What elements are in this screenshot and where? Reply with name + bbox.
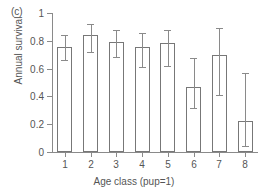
- error-bar-cap-lower: [61, 60, 68, 61]
- y-tick-label: 0.8: [0, 35, 44, 46]
- error-bar-cap-lower: [87, 52, 94, 53]
- x-tick-mark: [219, 152, 220, 157]
- x-tick-label: 2: [81, 159, 101, 170]
- x-tick-mark: [142, 152, 143, 157]
- error-bar-line: [142, 33, 143, 67]
- x-tick-label: 4: [132, 159, 152, 170]
- x-tick-label: 7: [209, 159, 229, 170]
- x-axis-title: Age class (pup=1): [0, 176, 268, 187]
- error-bar-cap-upper: [61, 35, 68, 36]
- x-tick-label: 6: [184, 159, 204, 170]
- y-tick-label-wrap: 0: [0, 152, 44, 153]
- error-bar-cap-lower: [139, 67, 146, 68]
- error-bar-cap-lower: [242, 146, 249, 147]
- x-tick-mark: [91, 152, 92, 157]
- error-bar-line: [245, 73, 246, 145]
- y-tick-label: 0.2: [0, 119, 44, 130]
- error-bar-cap-lower: [164, 66, 171, 67]
- error-bar-cap-lower: [216, 95, 223, 96]
- error-bar-line: [219, 28, 220, 95]
- x-tick-label: 8: [235, 159, 255, 170]
- error-bar-cap-upper: [87, 24, 94, 25]
- y-tick-label: 0: [0, 147, 44, 158]
- y-tick-label-wrap: 0.4: [0, 96, 44, 97]
- x-axis-line: [52, 152, 258, 153]
- y-tick-label-wrap: 0.2: [0, 124, 44, 125]
- error-bar-cap-upper: [242, 73, 249, 74]
- y-tick-label-wrap: 0.6: [0, 69, 44, 70]
- error-bar-cap-lower: [113, 57, 120, 58]
- error-bar-line: [168, 30, 169, 66]
- x-tick-mark: [65, 152, 66, 157]
- error-bar-line: [116, 30, 117, 58]
- error-bar-cap-upper: [113, 30, 120, 31]
- x-tick-label: 3: [106, 159, 126, 170]
- x-tick-mark: [116, 152, 117, 157]
- error-bar-cap-upper: [190, 58, 197, 59]
- bar: [57, 47, 72, 152]
- y-tick-label: 0.6: [0, 63, 44, 74]
- x-tick-mark: [245, 152, 246, 157]
- error-bar-cap-upper: [139, 33, 146, 34]
- error-bar-cap-lower: [190, 108, 197, 109]
- y-tick-label: 0.4: [0, 91, 44, 102]
- plot-area: [52, 13, 258, 152]
- error-bar-cap-upper: [164, 30, 171, 31]
- x-tick-mark: [168, 152, 169, 157]
- x-tick-mark: [194, 152, 195, 157]
- error-bar-line: [194, 58, 195, 108]
- figure-panel-c: (c) Annual survival 00.20.40.60.81 12345…: [0, 0, 268, 196]
- y-tick-mark: [47, 152, 52, 153]
- error-bar-cap-upper: [216, 28, 223, 29]
- y-tick-label: 1: [0, 8, 44, 19]
- bar: [109, 42, 124, 152]
- y-tick-label-wrap: 1: [0, 13, 44, 14]
- x-tick-label: 1: [55, 159, 75, 170]
- error-bar-line: [65, 35, 66, 60]
- y-tick-label-wrap: 0.8: [0, 41, 44, 42]
- error-bar-line: [91, 24, 92, 52]
- x-tick-label: 5: [158, 159, 178, 170]
